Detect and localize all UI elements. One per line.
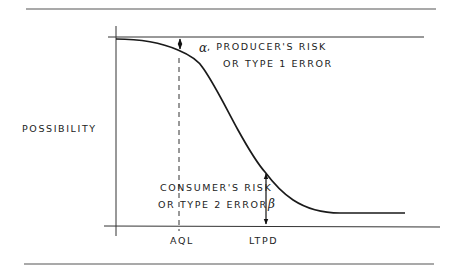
beta-label-line2: OR TYPE 2 ERROR — [158, 199, 268, 210]
x-axis-baseline — [104, 226, 440, 227]
oc-curve-diagram: POSSIBILITY α , PRODUCER'S RISK OR TYPE … — [0, 0, 461, 266]
alpha-symbol: α — [199, 41, 207, 55]
alpha-label-line1: , PRODUCER'S RISK — [207, 41, 327, 52]
beta-label-line1: CONSUMER'S RISK — [160, 182, 272, 193]
alpha-label-line2: OR TYPE 1 ERROR — [223, 58, 333, 69]
beta-symbol: β — [267, 197, 275, 211]
y-axis-label: POSSIBILITY — [22, 123, 97, 134]
x-tick-aql: AQL — [170, 235, 194, 246]
x-tick-ltpd: LTPD — [249, 235, 278, 246]
